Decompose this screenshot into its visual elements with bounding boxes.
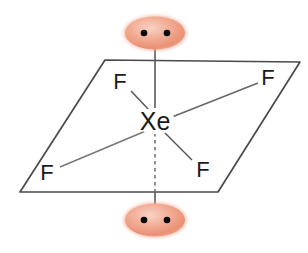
central-atom-label: Xe bbox=[140, 107, 171, 135]
bond-xe-fluorine-top-right bbox=[172, 83, 258, 117]
fluorine-top-left-label: F bbox=[113, 69, 126, 94]
lone-pair-bottom-dot-right bbox=[164, 217, 171, 224]
lone-pair-bottom-dot-left bbox=[141, 217, 148, 224]
lone-pair-top-dot-left bbox=[141, 30, 148, 37]
fluorine-bottom-right-label: F bbox=[196, 157, 209, 182]
molecule-canvas: Xe F F F F bbox=[0, 0, 308, 253]
bond-xe-fluorine-bottom-left bbox=[60, 130, 148, 167]
lone-pair-bottom bbox=[123, 202, 187, 238]
xef4-diagram: Xe F F F F bbox=[0, 0, 308, 253]
fluorine-top-right-label: F bbox=[261, 65, 274, 90]
lone-pair-bottom-ellipse bbox=[125, 204, 185, 237]
lone-pair-top-ellipse bbox=[125, 17, 185, 50]
lone-pair-top-dot-right bbox=[164, 30, 171, 37]
lone-pair-top bbox=[123, 15, 187, 51]
bond-xe-fluorine-bottom-right bbox=[165, 133, 192, 160]
fluorine-bottom-left-label: F bbox=[40, 160, 53, 185]
